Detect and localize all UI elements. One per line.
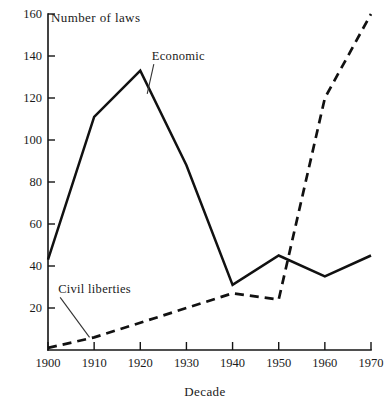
x-axis-tick-label: 1910 [82,356,107,370]
y-axis-tick-label: 20 [30,301,43,315]
y-axis-tick-label: 140 [23,49,42,63]
y-axis-tick-label: 80 [30,175,43,189]
chart-title: Number of laws [51,10,140,25]
chart-container: 20406080100120140160 1900191019201930194… [0,0,386,405]
x-axis-tick-label: 1960 [312,356,337,370]
series-line-civil-liberties [48,14,371,348]
x-axis-ticks [48,342,371,350]
y-axis-ticks [48,14,55,308]
y-axis-tick-label: 60 [30,217,43,231]
y-axis-tick-labels: 20406080100120140160 [23,7,42,315]
x-axis-tick-label: 1940 [220,356,245,370]
x-axis-tick-label: 1930 [174,356,199,370]
leader-line-civil-liberties-label [60,297,89,337]
line-chart: 20406080100120140160 1900191019201930194… [0,0,386,405]
series-label-economic: Economic [152,49,205,63]
x-axis-tick-label: 1900 [36,356,61,370]
y-axis-tick-label: 120 [23,91,42,105]
x-axis-tick-label: 1970 [359,356,384,370]
y-axis-tick-label: 40 [30,259,43,273]
x-axis-tick-label: 1950 [266,356,291,370]
series-label-civil-liberties: Civil liberties [58,282,131,296]
y-axis-tick-label: 160 [23,7,42,21]
x-axis-tick-label: 1920 [128,356,153,370]
y-axis-tick-label: 100 [23,133,42,147]
x-axis-tick-labels: 19001910192019301940195019601970 [36,356,384,370]
x-axis-title: Decade [184,384,225,399]
